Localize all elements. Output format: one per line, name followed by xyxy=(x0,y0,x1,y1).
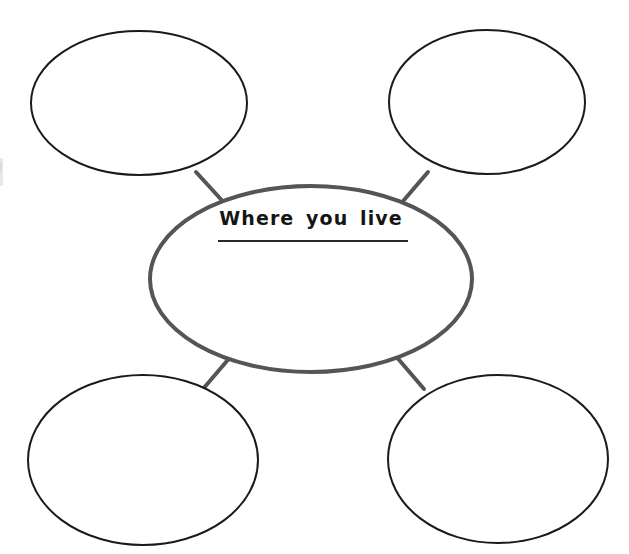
satellite-oval-bottom-left[interactable] xyxy=(28,375,258,545)
satellite-oval-top-left[interactable] xyxy=(31,31,247,175)
center-oval-label: Where you live xyxy=(219,207,403,229)
connector-center-to-bottom-right xyxy=(394,354,424,389)
bubble-map-diagram: Where you live xyxy=(0,0,629,554)
worksheet-canvas: Where you live xyxy=(0,0,629,554)
satellite-oval-top-right[interactable] xyxy=(389,30,585,174)
scan-artifact xyxy=(0,158,3,186)
satellite-oval-bottom-right[interactable] xyxy=(388,375,608,543)
